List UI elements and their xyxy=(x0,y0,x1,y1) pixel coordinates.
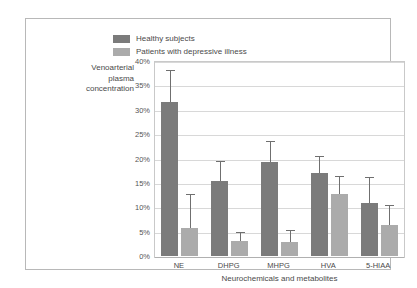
y-axis-tick-labels: 0%5%10%15%20%25%30%35%40% xyxy=(124,61,150,258)
bar-group-hva xyxy=(308,62,351,256)
x-tick-label-hva: HVA xyxy=(321,261,336,270)
error-bar-ne-healthy xyxy=(170,71,171,103)
legend-item-patient: Patients with depressive illness xyxy=(113,45,247,58)
bar-group-dhpg xyxy=(208,62,251,256)
error-cap-hva-healthy xyxy=(315,156,324,157)
error-bar-hva-healthy xyxy=(319,157,320,173)
error-cap-dhpg-healthy xyxy=(216,161,225,162)
legend-label-patient: Patients with depressive illness xyxy=(136,47,247,56)
y-tick-label-20%: 20% xyxy=(124,154,150,163)
x-tick-label-mhpg: MHPG xyxy=(267,261,290,270)
error-bar-5-hiaa-healthy xyxy=(369,178,370,203)
error-cap-mhpg-healthy xyxy=(266,141,275,142)
error-bar-dhpg-patient xyxy=(240,233,241,242)
legend-swatch-healthy-icon xyxy=(113,35,130,43)
y-tick-label-30%: 30% xyxy=(124,105,150,114)
x-tick-label-dhpg: DHPG xyxy=(218,261,240,270)
error-bar-mhpg-patient xyxy=(290,231,291,243)
error-bar-ne-patient xyxy=(190,195,191,228)
y-tick-label-0%: 0% xyxy=(124,252,150,261)
x-axis-title: Neurochemicals and metabolites xyxy=(154,274,405,283)
bar-hva-patient xyxy=(331,194,348,256)
bar-mhpg-healthy xyxy=(261,162,278,256)
bar-dhpg-healthy xyxy=(211,181,228,256)
bar-series-container xyxy=(155,62,404,257)
bar-dhpg-patient xyxy=(231,241,248,256)
x-tick-label-ne: NE xyxy=(174,261,184,270)
error-bar-5-hiaa-patient xyxy=(389,206,390,225)
chart-legend: Healthy subjects Patients with depressiv… xyxy=(113,32,247,58)
error-cap-5-hiaa-patient xyxy=(385,205,394,206)
error-bar-dhpg-healthy xyxy=(220,162,221,182)
figure-frame: Venoarterial plasma concentration 0%5%10… xyxy=(25,18,391,270)
error-bar-hva-patient xyxy=(339,177,340,195)
error-cap-ne-patient xyxy=(186,194,195,195)
y-tick-label-10%: 10% xyxy=(124,203,150,212)
error-cap-mhpg-patient xyxy=(286,230,295,231)
bar-ne-healthy xyxy=(161,102,178,256)
error-cap-dhpg-patient xyxy=(236,232,245,233)
y-tick-label-15%: 15% xyxy=(124,178,150,187)
bar-group-mhpg xyxy=(258,62,301,256)
y-tick-label-5%: 5% xyxy=(124,227,150,236)
y-axis-title-line-2: plasma xyxy=(56,74,134,85)
y-axis-title: Venoarterial plasma concentration xyxy=(56,63,134,95)
error-cap-5-hiaa-healthy xyxy=(365,177,374,178)
y-tick-label-35%: 35% xyxy=(124,81,150,90)
x-axis-tick-labels: NEDHPGMHPGHVA5-HIAA xyxy=(154,261,405,273)
error-bar-mhpg-healthy xyxy=(270,142,271,162)
error-cap-ne-healthy xyxy=(166,70,175,71)
plot-area xyxy=(154,61,405,258)
gridline-0 xyxy=(155,257,404,258)
y-axis-title-line-1: Venoarterial xyxy=(56,63,134,74)
y-tick-label-25%: 25% xyxy=(124,130,150,139)
bar-ne-patient xyxy=(181,228,198,256)
y-axis-title-line-3: concentration xyxy=(56,84,134,95)
bar-5-hiaa-patient xyxy=(381,225,398,256)
legend-item-healthy: Healthy subjects xyxy=(113,32,247,45)
legend-swatch-patient-icon xyxy=(113,48,130,56)
error-cap-hva-patient xyxy=(335,176,344,177)
x-tick-label-5-hiaa: 5-HIAA xyxy=(366,261,390,270)
bar-group-ne xyxy=(158,62,201,256)
legend-label-healthy: Healthy subjects xyxy=(136,34,195,43)
bar-group-5-hiaa xyxy=(358,62,401,256)
bar-5-hiaa-healthy xyxy=(361,203,378,256)
bar-mhpg-patient xyxy=(281,242,298,256)
bar-hva-healthy xyxy=(311,173,328,256)
